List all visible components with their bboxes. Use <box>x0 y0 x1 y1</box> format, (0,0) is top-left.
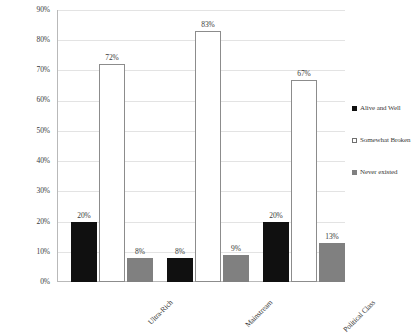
bar-value-label: 20% <box>77 212 90 220</box>
y-tick-label: 70% <box>4 66 50 74</box>
bar-group: 8% 83% 9% <box>161 10 249 282</box>
y-tick-label: 40% <box>4 157 50 165</box>
y-tick-label: 30% <box>4 187 50 195</box>
bar-value-label: 9% <box>231 245 241 253</box>
legend-swatch-icon <box>352 106 357 111</box>
bar-value-label: 83% <box>201 21 214 29</box>
legend-item-somewhat-broken[interactable]: Somewhat Broken <box>352 136 412 144</box>
bar-value-label: 13% <box>325 233 338 241</box>
bar-somewhat-broken[interactable] <box>291 80 317 283</box>
bar-somewhat-broken[interactable] <box>195 31 221 282</box>
legend-label: Somewhat Broken <box>360 136 410 144</box>
y-tick-label: 10% <box>4 248 50 256</box>
bar-group: 20% 72% 8% <box>65 10 153 282</box>
bar-slot: 8% <box>167 10 193 282</box>
legend-swatch-icon <box>352 170 357 175</box>
bar-slot: 13% <box>319 10 345 282</box>
bar-group: 20% 67% 13% <box>257 10 345 282</box>
bar-slot: 20% <box>71 10 97 282</box>
y-tick-label: 50% <box>4 127 50 135</box>
bar-slot: 83% <box>195 10 221 282</box>
bar-slot: 8% <box>127 10 153 282</box>
bar-alive-and-well[interactable] <box>167 258 193 282</box>
bar-never-existed[interactable] <box>223 255 249 282</box>
bar-value-label: 8% <box>135 248 145 256</box>
bar-value-label: 8% <box>175 248 185 256</box>
bar-slot: 67% <box>291 10 317 282</box>
legend-label: Never existed <box>360 168 397 176</box>
bar-value-label: 72% <box>105 54 118 62</box>
y-tick-label: 60% <box>4 96 50 104</box>
x-category-label-ultra-rich: Ultra-Rich <box>146 298 174 326</box>
bar-value-label: 20% <box>269 212 282 220</box>
legend-item-alive-and-well[interactable]: Alive and Well <box>352 104 412 112</box>
legend-swatch-icon <box>352 138 357 143</box>
bar-never-existed[interactable] <box>127 258 153 282</box>
legend-label: Alive and Well <box>360 104 401 112</box>
bar-slot: 9% <box>223 10 249 282</box>
bar-slot: 20% <box>263 10 289 282</box>
legend-item-never-existed[interactable]: Never existed <box>352 168 412 176</box>
y-tick-label: 20% <box>4 218 50 226</box>
y-tick-label: 0% <box>4 278 50 286</box>
bar-somewhat-broken[interactable] <box>99 64 125 282</box>
bar-alive-and-well[interactable] <box>71 222 97 282</box>
y-tick-label: 90% <box>4 6 50 14</box>
x-category-label-mainstream: Mainstream <box>243 298 274 329</box>
bar-value-label: 67% <box>297 70 310 78</box>
y-axis-line <box>57 10 58 282</box>
legend: Alive and Well Somewhat Broken Never exi… <box>352 104 412 200</box>
bar-alive-and-well[interactable] <box>263 222 289 282</box>
x-category-label-political-class: Political Class <box>341 298 377 334</box>
y-tick-label: 80% <box>4 36 50 44</box>
bar-slot: 72% <box>99 10 125 282</box>
plot-area: 20% 72% 8% 8% 83% 9% <box>57 10 345 282</box>
bar-never-existed[interactable] <box>319 243 345 282</box>
